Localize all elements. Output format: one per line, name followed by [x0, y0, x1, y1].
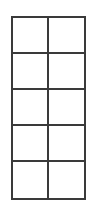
grid-cell-r5-c1 [13, 162, 49, 198]
grid-cell-r2-c2 [49, 54, 85, 90]
grid-cell-r5-c2 [49, 162, 85, 198]
empty-grid-table [11, 16, 86, 200]
grid-cell-r3-c2 [49, 90, 85, 126]
grid-cell-r1-c2 [49, 18, 85, 54]
grid-cell-r4-c2 [49, 126, 85, 162]
grid-cell-r4-c1 [13, 126, 49, 162]
grid-cell-r1-c1 [13, 18, 49, 54]
grid-cell-r3-c1 [13, 90, 49, 126]
grid-cell-r2-c1 [13, 54, 49, 90]
